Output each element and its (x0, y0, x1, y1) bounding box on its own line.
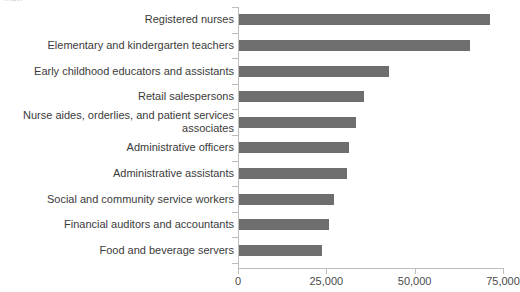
bar (239, 245, 322, 256)
bar (239, 194, 334, 205)
x-axis-tick (326, 268, 327, 274)
category-label: Elementary and kindergarten teachers (48, 39, 235, 52)
y-axis-tick (232, 263, 238, 264)
bar (239, 219, 329, 230)
plot-area: 025,00050,00075,000 Registered nursesEle… (0, 0, 520, 292)
bar (239, 168, 347, 179)
bar (239, 142, 349, 153)
category-label: Registered nurses (145, 13, 234, 26)
category-label: Social and community service workers (47, 193, 234, 206)
x-axis-tick-label: 0 (235, 275, 241, 287)
bar (239, 14, 490, 25)
category-label: Retail salespersons (138, 90, 234, 103)
y-axis-tick (232, 58, 238, 59)
y-axis-tick (232, 161, 238, 162)
category-label: Administrative officers (127, 141, 234, 154)
x-axis-tick (238, 268, 239, 274)
x-axis-tick-label: 25,000 (310, 275, 344, 287)
y-axis-tick (232, 212, 238, 213)
y-axis-tick (232, 84, 238, 85)
y-axis-tick (232, 7, 238, 8)
x-axis-tick (415, 268, 416, 274)
category-label: Nurse aides, orderlies, and patient serv… (23, 109, 234, 135)
bar (239, 66, 389, 77)
x-axis-tick-label: 50,000 (398, 275, 432, 287)
x-axis-line (238, 268, 504, 269)
bar-chart: men 025,00050,00075,000 Registered nurse… (0, 0, 520, 292)
y-axis-tick (232, 237, 238, 238)
bar (239, 91, 364, 102)
y-axis-tick (232, 186, 238, 187)
x-axis-tick-label: 75,000 (486, 275, 520, 287)
category-label: Early childhood educators and assistants (34, 65, 234, 78)
category-label: Administrative assistants (113, 167, 234, 180)
category-label: Financial auditors and accountants (64, 218, 234, 231)
y-axis-tick (232, 33, 238, 34)
x-axis-tick (503, 268, 504, 274)
category-label: Food and beverage servers (99, 244, 234, 257)
bar (239, 40, 470, 51)
bar (239, 117, 356, 128)
